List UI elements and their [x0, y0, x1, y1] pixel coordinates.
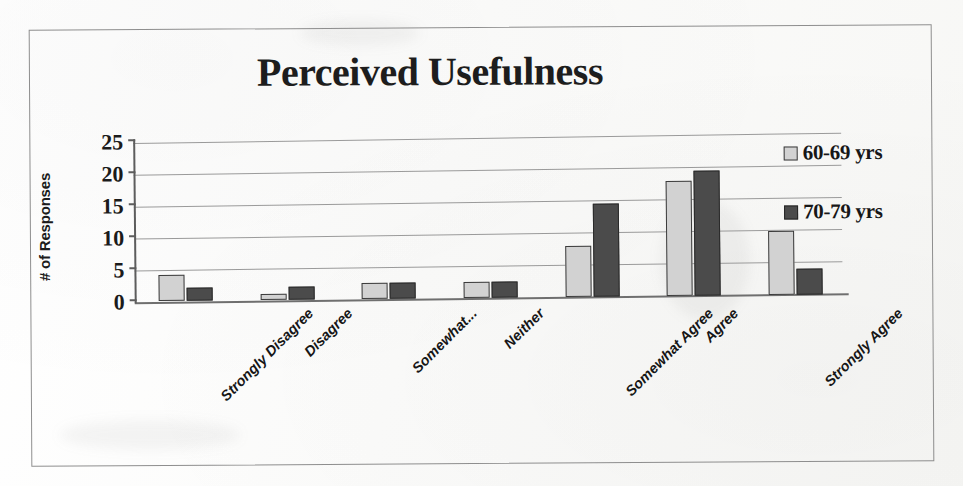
plot-area: 2520151050 — [71, 134, 863, 317]
bar — [186, 288, 212, 301]
x-axis-tick-label: Neither — [501, 305, 548, 352]
bar-group — [259, 139, 315, 300]
bar — [362, 283, 388, 299]
legend-label: 70-79 yrs — [803, 199, 883, 225]
bar-group — [462, 138, 518, 299]
y-axis-tick-labels: 2520151050 — [71, 141, 129, 302]
bars-layer — [133, 134, 847, 301]
bar-group — [360, 139, 416, 300]
axis-area — [133, 134, 847, 301]
bar — [464, 282, 490, 298]
bar — [288, 287, 314, 300]
chart-legend: 60-69 yrs70-79 yrs — [784, 139, 945, 258]
legend-swatch-icon — [784, 146, 798, 160]
y-axis-title: # of Responses — [36, 142, 58, 312]
bar — [565, 246, 591, 297]
bar — [260, 293, 286, 300]
x-axis-tick-labels: Strongly DisagreeDisagreeSomewhat...Neit… — [134, 305, 874, 435]
bar — [390, 282, 416, 298]
bar-group — [564, 137, 620, 298]
legend-item: 60-69 yrs — [784, 139, 944, 165]
x-axis-tick-label: Strongly Disagree — [217, 305, 316, 404]
bar — [158, 275, 184, 301]
y-axis-tick-label: 0 — [73, 289, 125, 315]
bar — [797, 269, 823, 295]
y-axis-tick-label: 25 — [71, 129, 123, 155]
legend-item: 70-79 yrs — [784, 198, 944, 224]
legend-label: 60-69 yrs — [803, 140, 883, 166]
y-axis-tick-label: 10 — [72, 225, 124, 251]
bar-group — [666, 136, 722, 297]
bar — [593, 204, 620, 297]
y-axis-tick-label: 20 — [71, 161, 123, 187]
x-axis-tick-label: Somewhat Agree — [622, 305, 716, 399]
bar — [666, 181, 693, 296]
x-axis-tick-label: Somewhat... — [409, 305, 480, 376]
chart-page: Perceived Usefulness # of Responses 2520… — [0, 0, 963, 486]
legend-swatch-icon — [784, 205, 798, 219]
bar-group — [157, 140, 213, 301]
y-axis-tick-label: 15 — [72, 193, 124, 219]
y-axis-tick-label: 5 — [72, 257, 124, 283]
bar — [492, 282, 518, 298]
chart-title: Perceived Usefulness — [0, 46, 860, 97]
bar — [694, 171, 721, 296]
